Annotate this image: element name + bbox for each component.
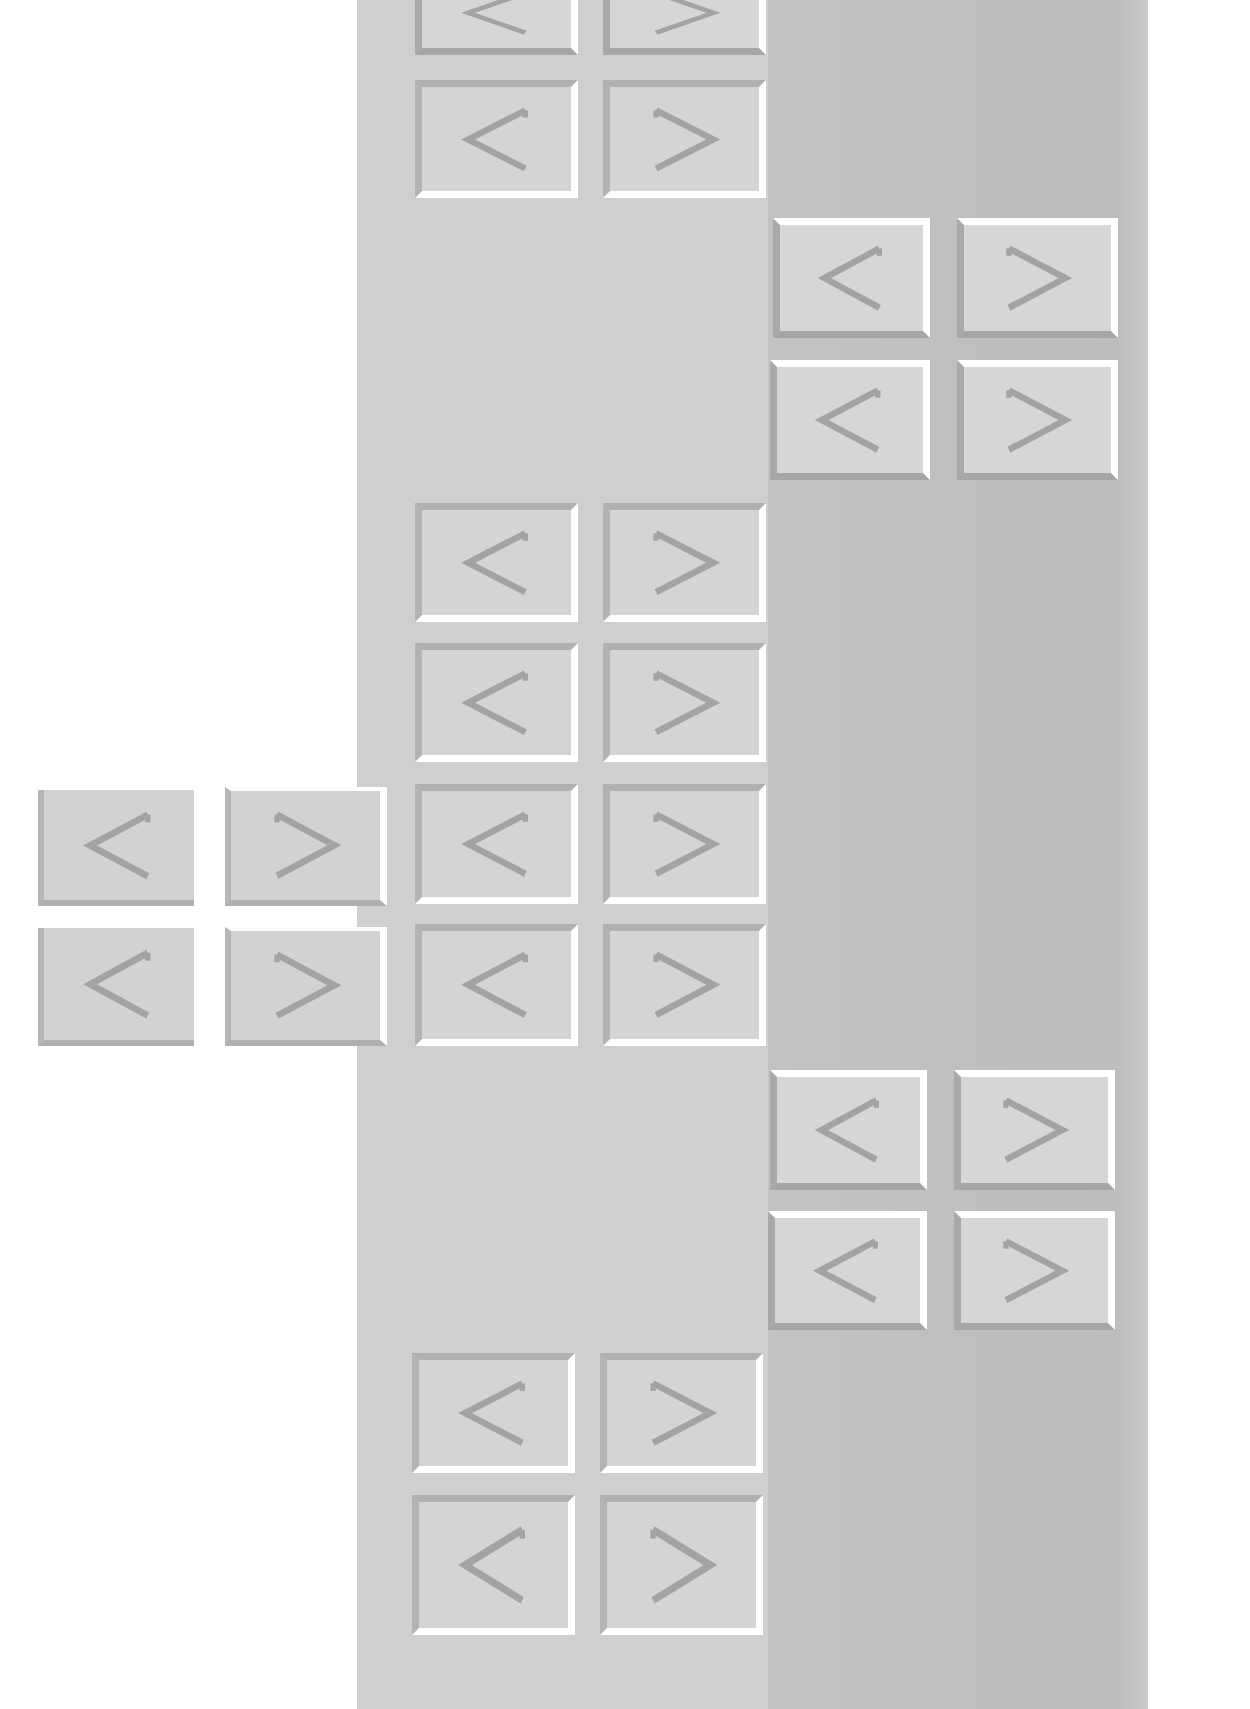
greater-than-icon — [610, 650, 759, 755]
greater-than-icon — [231, 931, 380, 1040]
greater-than-tile — [603, 80, 766, 198]
greater-than-icon — [964, 225, 1111, 331]
greater-than-tile — [600, 1353, 763, 1473]
less-than-icon — [777, 1077, 920, 1183]
less-than-tile — [770, 1070, 927, 1190]
greater-than-icon — [607, 1502, 756, 1628]
greater-than-icon — [607, 1360, 756, 1466]
greater-than-icon — [610, 791, 759, 897]
less-than-tile — [415, 0, 578, 55]
less-than-icon — [419, 1360, 568, 1466]
greater-than-tile — [225, 787, 387, 906]
greater-than-icon — [610, 931, 759, 1039]
greater-than-icon — [961, 1077, 1108, 1183]
less-than-tile — [38, 790, 194, 906]
greater-than-icon — [231, 791, 380, 900]
less-than-tile — [773, 218, 930, 338]
greater-than-tile — [603, 503, 766, 622]
greater-than-tile — [603, 784, 766, 904]
less-than-icon — [422, 87, 571, 191]
less-than-tile — [415, 784, 578, 904]
less-than-icon — [419, 1502, 568, 1628]
less-than-icon — [780, 225, 923, 331]
less-than-tile — [38, 928, 194, 1046]
less-than-tile — [415, 643, 578, 762]
greater-than-tile — [603, 924, 766, 1046]
less-than-icon — [422, 510, 571, 615]
greater-than-icon — [610, 510, 759, 615]
less-than-tile — [415, 80, 578, 198]
less-than-tile — [415, 924, 578, 1046]
greater-than-tile — [957, 218, 1118, 338]
less-than-tile — [770, 360, 930, 480]
greater-than-tile — [603, 643, 766, 762]
greater-than-icon — [964, 367, 1111, 473]
less-than-tile — [415, 503, 578, 622]
less-than-icon — [44, 928, 194, 1040]
greater-than-icon — [610, 87, 759, 191]
less-than-tile — [768, 1211, 927, 1330]
greater-than-tile — [600, 1495, 763, 1635]
less-than-icon — [777, 367, 923, 473]
greater-than-icon — [961, 1218, 1108, 1323]
less-than-icon — [422, 791, 571, 897]
less-than-icon — [422, 650, 571, 755]
less-than-icon — [422, 931, 571, 1039]
greater-than-tile — [603, 0, 766, 55]
greater-than-tile — [957, 360, 1118, 480]
less-than-tile — [412, 1495, 575, 1635]
less-than-icon — [775, 1218, 920, 1323]
greater-than-icon — [610, 0, 759, 48]
greater-than-tile — [954, 1070, 1115, 1190]
less-than-icon — [422, 0, 571, 48]
less-than-icon — [44, 790, 194, 900]
less-than-tile — [412, 1353, 575, 1473]
greater-than-tile — [954, 1211, 1115, 1330]
greater-than-tile — [225, 927, 387, 1046]
